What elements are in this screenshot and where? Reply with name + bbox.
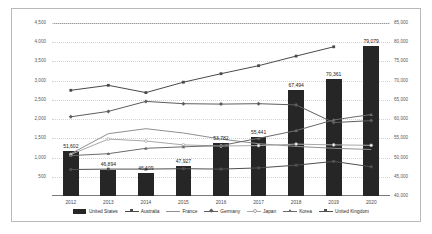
line-marker xyxy=(332,144,335,147)
chart-legend: United StatesAustraliaFranceGermanyJapan… xyxy=(52,205,390,217)
plot-area: 51,60246,89446,10947,92753,78255,44167,4… xyxy=(52,23,390,196)
legend-label: Australia xyxy=(141,209,160,214)
line-marker xyxy=(332,160,335,163)
bar-data-label: 46,894 xyxy=(90,161,128,167)
line-marker xyxy=(69,89,72,92)
line-marker xyxy=(182,81,185,84)
left-axis-tick-label: 4,500 xyxy=(12,20,46,25)
line-marker xyxy=(181,102,185,106)
line-marker xyxy=(257,144,260,147)
bar-data-label: 47,927 xyxy=(165,158,203,164)
left-axis-tick-label: 1,500 xyxy=(12,135,46,140)
line-marker xyxy=(144,99,148,103)
line-marker xyxy=(257,102,261,106)
bar-data-label: 79,079 xyxy=(352,38,390,44)
legend-label: Korea xyxy=(299,209,312,214)
legend-marker-icon xyxy=(125,208,139,215)
bar-data-label: 70,361 xyxy=(315,71,353,77)
line-marker xyxy=(369,119,373,123)
line-marker xyxy=(257,167,260,170)
legend-marker-icon xyxy=(247,208,261,215)
legend-item-united-kingdom[interactable]: United Kingdom xyxy=(319,208,369,215)
chart-frame: 51,60246,89446,10947,92753,78255,44167,4… xyxy=(11,8,421,222)
legend-marker-icon xyxy=(319,208,333,215)
right-axis-tick-label: 60,000 xyxy=(394,116,430,121)
line-marker xyxy=(107,168,110,171)
line-series-group xyxy=(52,23,390,196)
left-axis-tick-label: 500 xyxy=(12,174,46,179)
line-marker xyxy=(145,140,148,143)
left-axis-tick-label: 2,000 xyxy=(12,116,46,121)
line-marker xyxy=(220,72,223,75)
legend-marker-icon xyxy=(73,208,87,215)
line-marker xyxy=(370,144,373,147)
right-axis-tick-label: 55,000 xyxy=(394,135,430,140)
legend-item-france[interactable]: France xyxy=(166,208,197,215)
legend-label: Japan xyxy=(263,209,276,214)
line-marker xyxy=(332,45,335,48)
bar-data-label: 53,782 xyxy=(202,135,240,141)
legend-item-korea[interactable]: Korea xyxy=(283,208,312,215)
legend-label: United States xyxy=(89,209,118,214)
line-marker xyxy=(257,64,260,67)
legend-item-australia[interactable]: Australia xyxy=(125,208,160,215)
line-marker xyxy=(69,168,72,171)
legend-label: France xyxy=(182,209,197,214)
legend-label: United Kingdom xyxy=(335,209,369,214)
left-axis-tick-label: 4,000 xyxy=(12,39,46,44)
line-marker xyxy=(295,143,298,146)
line-marker xyxy=(107,84,110,87)
line-marker xyxy=(107,138,110,141)
line-marker xyxy=(370,165,373,168)
line-marker xyxy=(219,102,223,106)
legend-marker-icon xyxy=(204,208,218,215)
left-axis-tick-label: 3,000 xyxy=(12,78,46,83)
right-axis-tick-label: 70,000 xyxy=(394,78,430,83)
line-marker xyxy=(182,167,185,170)
line-marker xyxy=(294,103,298,107)
line-marker xyxy=(145,91,148,94)
line-france xyxy=(71,129,371,154)
bar-data-label: 55,441 xyxy=(240,129,278,135)
left-axis-tick-label: 2,500 xyxy=(12,97,46,102)
right-axis-tick-label: 65,000 xyxy=(394,97,430,102)
line-marker xyxy=(69,115,73,119)
left-axis-tick-label: 1,000 xyxy=(12,155,46,160)
right-axis-tick-label: 85,000 xyxy=(394,20,430,25)
right-axis-tick-label: 80,000 xyxy=(394,39,430,44)
bar-data-label: 51,602 xyxy=(52,143,90,149)
legend-item-japan[interactable]: Japan xyxy=(247,208,276,215)
right-axis-tick-label: 40,000 xyxy=(394,193,430,198)
bar-data-label: 46,109 xyxy=(127,165,165,171)
line-marker xyxy=(220,168,223,171)
legend-label: Germany xyxy=(220,209,240,214)
right-axis-tick-label: 75,000 xyxy=(394,58,430,63)
legend-item-united-states[interactable]: United States xyxy=(73,208,118,215)
legend-item-germany[interactable]: Germany xyxy=(204,208,240,215)
right-axis-tick-label: 45,000 xyxy=(394,174,430,179)
left-axis-tick-label: 3,500 xyxy=(12,58,46,63)
legend-marker-icon xyxy=(283,208,297,215)
line-marker xyxy=(106,109,110,113)
line-marker xyxy=(295,164,298,167)
right-axis-tick-label: 50,000 xyxy=(394,155,430,160)
legend-marker-icon xyxy=(166,208,180,215)
bar-data-label: 67,494 xyxy=(277,82,315,88)
line-marker xyxy=(295,55,298,58)
